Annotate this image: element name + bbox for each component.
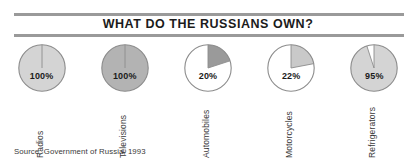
title-rule-top [14, 13, 404, 16]
pie-graphic [183, 43, 233, 93]
infographic-chart: WHAT DO THE RUSSIANS OWN? 100%100%20%22%… [0, 0, 416, 162]
pie-graphic [100, 43, 150, 93]
pie-category-label-text: Automobiles [201, 110, 211, 158]
pie-chart-televisions: 100% [85, 42, 165, 98]
pie-category-label-motorcycles: Motorcycles [251, 104, 331, 158]
pie-category-label-refrigerators: Refrigerators [334, 104, 414, 158]
pie-chart-motorcycles: 22% [251, 42, 331, 98]
pie-graphic [17, 43, 67, 93]
chart-title: WHAT DO THE RUSSIANS OWN? [0, 17, 416, 31]
pie-category-label-text: Refrigerators [367, 107, 377, 158]
title-rule-bottom [14, 34, 404, 37]
pie-chart-refrigerators: 95% [334, 42, 414, 98]
pie-graphic [266, 43, 316, 93]
pie-chart-automobiles: 20% [168, 42, 248, 98]
pie-chart-radios: 100% [2, 42, 82, 98]
pie-category-label-automobiles: Automobiles [168, 104, 248, 158]
pie-graphic [349, 43, 399, 93]
source-note: Source: Government of Russia, 1993 [14, 147, 146, 156]
pie-chart-row: 100%100%20%22%95% [0, 42, 416, 98]
pie-category-label-text: Motorcycles [284, 111, 294, 158]
